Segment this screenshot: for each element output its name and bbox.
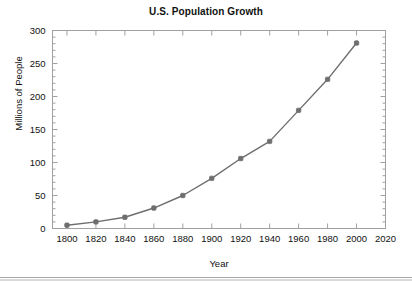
y-tick-label: 150 [30, 124, 46, 135]
data-point-marker [354, 41, 358, 45]
x-tick-label: 1840 [114, 233, 135, 244]
x-tick-label: 2020 [375, 233, 396, 244]
data-point-marker [123, 215, 127, 219]
data-point-marker [152, 206, 156, 210]
x-tick-label: 1820 [85, 233, 106, 244]
x-tick-label: 2000 [346, 233, 367, 244]
x-tick-label: 1940 [259, 233, 280, 244]
y-tick-label: 0 [40, 223, 45, 234]
y-tick-label: 200 [30, 91, 46, 102]
x-tick-label: 1800 [56, 233, 77, 244]
y-tick-label: 50 [35, 190, 46, 201]
x-tick-label: 1960 [288, 233, 309, 244]
x-axis-label: Year [52, 258, 386, 269]
footer-divider [0, 277, 412, 278]
data-series-line [67, 43, 357, 225]
data-point-marker [267, 139, 271, 143]
chart-figure: U.S. Population Growth 05010015020025030… [0, 0, 412, 281]
x-tick-label: 1880 [172, 233, 193, 244]
y-axis-label: Millions of People [13, 34, 24, 154]
y-tick-label: 300 [30, 25, 46, 36]
x-tick-label: 1900 [201, 233, 222, 244]
x-tick-label: 1860 [143, 233, 164, 244]
y-tick-label: 100 [30, 157, 46, 168]
line-chart-plot: 0501001502002503001800182018401860188019… [0, 0, 412, 281]
x-tick-label: 1920 [230, 233, 251, 244]
data-point-marker [181, 193, 185, 197]
y-tick-label: 250 [30, 58, 46, 69]
data-point-marker [239, 156, 243, 160]
data-point-marker [210, 176, 214, 180]
plot-frame [53, 31, 386, 229]
data-point-marker [65, 223, 69, 227]
x-tick-label: 1980 [317, 233, 338, 244]
data-point-marker [325, 77, 329, 81]
data-point-marker [94, 220, 98, 224]
data-point-marker [296, 108, 300, 112]
